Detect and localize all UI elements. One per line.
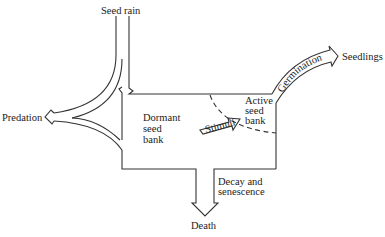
- decay-senescence-label: Decay and senescence: [218, 176, 265, 197]
- dormant-seed-bank-label: Dormant seed bank: [143, 112, 183, 145]
- germination-label: Germination: [275, 51, 324, 94]
- seed-rain-to-predation-arrow-outer: [54, 16, 116, 113]
- seedlings-label: Seedlings: [342, 51, 383, 62]
- seed-rain-label: Seed rain: [101, 5, 141, 16]
- dormant-bank-left-edge: [119, 87, 122, 140]
- death-label: Death: [191, 220, 217, 231]
- predation-label: Predation: [2, 112, 43, 123]
- seed-bank-diagram: Seed rain Germination Seedlings Predatio…: [0, 0, 385, 237]
- predation-arrowhead-icon: [45, 110, 54, 124]
- seed-rain-to-bank-arrow: [129, 16, 272, 94]
- stimuli-label: Stimuli: [204, 116, 237, 135]
- predation-branch-join: [72, 118, 120, 140]
- dormant-to-predation-arrow: [54, 121, 122, 150]
- germination-arrow-upper: [272, 46, 338, 103]
- active-seed-bank-label: Active seed bank: [245, 95, 276, 126]
